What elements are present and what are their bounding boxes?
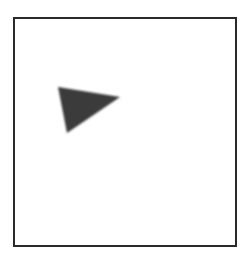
triangle-shape [58, 87, 120, 133]
triangle-diagram [0, 0, 246, 258]
